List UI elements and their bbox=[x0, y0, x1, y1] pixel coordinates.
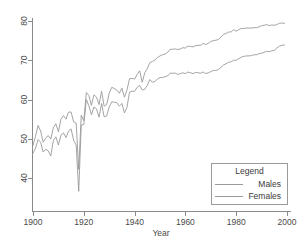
x-tick-label: 1960 bbox=[176, 217, 195, 227]
legend-label-females: Females bbox=[243, 191, 283, 202]
series-line-females bbox=[33, 23, 284, 169]
x-tick-label: 1900 bbox=[24, 217, 43, 227]
legend: Legend Males Females bbox=[211, 163, 288, 205]
legend-swatch-females bbox=[215, 196, 243, 197]
plot-canvas: 4050607080 190019201940196019802000 Year bbox=[0, 0, 304, 244]
legend-item-females: Females bbox=[212, 190, 287, 202]
x-axis-ticks bbox=[34, 212, 288, 217]
x-tick-label: 2000 bbox=[278, 217, 297, 227]
legend-title: Legend bbox=[212, 166, 287, 177]
y-axis-tick-labels: 4050607080 bbox=[19, 16, 29, 183]
y-tick-label: 70 bbox=[19, 55, 29, 65]
x-tick-label: 1920 bbox=[74, 217, 93, 227]
legend-label-males: Males bbox=[243, 179, 283, 190]
x-tick-label: 1940 bbox=[125, 217, 144, 227]
y-tick-label: 80 bbox=[19, 16, 29, 26]
y-tick-label: 50 bbox=[19, 134, 29, 144]
x-axis-tick-labels: 190019201940196019802000 bbox=[24, 217, 297, 227]
x-axis-title: Year bbox=[152, 228, 169, 238]
legend-swatch-males bbox=[215, 184, 243, 185]
life-expectancy-chart: 4050607080 190019201940196019802000 Year… bbox=[0, 0, 304, 244]
legend-item-males: Males bbox=[212, 178, 287, 190]
y-tick-label: 40 bbox=[19, 173, 29, 183]
x-tick-label: 1980 bbox=[227, 217, 246, 227]
y-tick-label: 60 bbox=[19, 95, 29, 105]
